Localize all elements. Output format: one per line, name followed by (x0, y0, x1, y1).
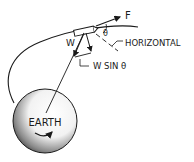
wsin-leader (80, 59, 89, 66)
rocket-trajectory-diagram: EARTH F θ HORIZONTAL W W SIN θ (0, 0, 194, 162)
earth: EARTH (13, 89, 77, 153)
theta-label: θ (103, 29, 108, 38)
component-closing-line (75, 53, 91, 57)
thrust-vector (96, 17, 120, 26)
weight-component-label: W SIN θ (93, 61, 126, 71)
horizontal-leader (112, 41, 123, 46)
earth-label: EARTH (28, 117, 61, 128)
weight-parallel-component (86, 33, 91, 51)
horizontal-label: HORIZONTAL (125, 38, 181, 48)
force-label: F (125, 10, 131, 21)
weight-label: W (66, 38, 75, 48)
